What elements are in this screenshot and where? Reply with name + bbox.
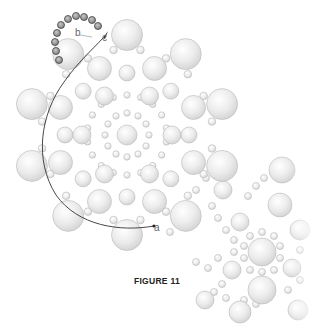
bead (241, 255, 248, 262)
bead (209, 203, 216, 210)
bead (87, 56, 111, 80)
bead (137, 216, 145, 224)
bead (75, 83, 91, 99)
label-b: b (75, 27, 81, 38)
bead (223, 295, 230, 302)
bead (62, 70, 70, 78)
bead (214, 181, 232, 199)
bead (231, 237, 238, 244)
bead (117, 125, 137, 145)
figure-caption: FIGURE 11 (0, 276, 314, 286)
bead (124, 110, 130, 116)
bead (105, 121, 111, 127)
bead (163, 171, 179, 187)
bead (135, 113, 141, 119)
bead (277, 255, 284, 262)
bead (182, 151, 206, 175)
bead (241, 243, 248, 250)
bead (105, 143, 111, 149)
bead (223, 227, 230, 234)
bead (89, 112, 95, 118)
bead (193, 187, 200, 194)
bead (48, 151, 72, 175)
bead (253, 183, 260, 190)
bead (113, 151, 119, 157)
bead (143, 56, 167, 80)
bead (193, 259, 200, 266)
bead (170, 39, 201, 70)
bead (124, 172, 130, 178)
bead (119, 65, 135, 81)
bead (112, 220, 143, 251)
bead (110, 46, 118, 54)
bead (158, 112, 164, 118)
bead (16, 89, 47, 120)
bead (102, 132, 108, 138)
bead (110, 216, 118, 224)
bead (277, 243, 284, 250)
bead (146, 132, 152, 138)
label-c: c (102, 32, 107, 43)
bead (208, 118, 216, 126)
bead (124, 154, 130, 160)
bead (167, 229, 174, 236)
dark-bead (54, 30, 61, 37)
bead (75, 171, 91, 187)
dark-bead (56, 57, 63, 64)
bead (143, 190, 167, 214)
bead (215, 215, 222, 222)
dark-bead (81, 14, 88, 21)
main-rosette (16, 20, 237, 251)
bead (135, 151, 141, 157)
bead (248, 238, 276, 266)
bead (119, 189, 135, 205)
bead (207, 89, 238, 120)
bead (271, 267, 278, 274)
dark-bead (95, 23, 102, 30)
bead (163, 126, 181, 144)
label-a: a (154, 222, 160, 233)
bead (229, 301, 251, 323)
bead (245, 193, 252, 200)
bead (143, 143, 149, 149)
bead (73, 126, 91, 144)
bead (163, 83, 179, 99)
bead (141, 87, 159, 105)
dark-bead (53, 48, 60, 55)
secondary-rosette (167, 157, 311, 323)
dark-bead (52, 39, 59, 46)
bead (89, 152, 95, 158)
bead (207, 150, 238, 181)
bead (48, 95, 72, 119)
bead (196, 291, 214, 309)
bead (124, 92, 130, 98)
bead (62, 192, 70, 200)
bead (96, 87, 114, 105)
bead (181, 127, 197, 143)
bead (143, 121, 149, 127)
bead (215, 255, 222, 262)
bead (231, 249, 238, 256)
bead (112, 20, 143, 51)
bead (247, 267, 254, 274)
bead (113, 113, 119, 119)
label-b-leader (80, 35, 92, 37)
bead (96, 165, 114, 183)
dark-bead (58, 22, 65, 29)
bead (184, 192, 192, 200)
bead (247, 233, 254, 240)
bead (271, 233, 278, 240)
bead (137, 46, 145, 54)
dark-bead (73, 13, 80, 20)
bead (87, 190, 111, 214)
bead (268, 193, 292, 217)
bead (141, 165, 159, 183)
dark-bead (65, 16, 72, 23)
bead (259, 229, 266, 236)
right-edge-fade (290, 140, 314, 324)
bead (57, 127, 73, 143)
bead (208, 145, 216, 153)
bead (184, 70, 192, 78)
bead (170, 200, 201, 231)
dark-bead (89, 17, 96, 24)
